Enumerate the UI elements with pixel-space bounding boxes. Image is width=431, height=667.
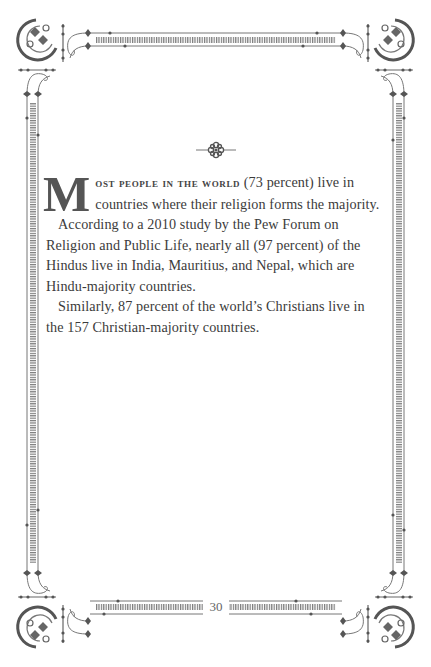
book-page: Most people in the world (73 percent) li…: [0, 0, 431, 667]
corner-ornament-bottom-left: [18, 570, 91, 647]
drop-cap: M: [43, 175, 90, 213]
paragraph-3: Similarly, 87 percent of the world’s Chr…: [46, 296, 386, 337]
corner-ornament-top-right: [340, 20, 413, 97]
corner-ornament-bottom-right: [340, 570, 413, 647]
paragraph-1: Most people in the world (73 percent) li…: [46, 172, 386, 214]
floral-ornament-icon: [196, 141, 236, 159]
corner-ornament-top-left: [18, 20, 91, 97]
paragraph-2: According to a 2010 study by the Pew For…: [46, 214, 386, 296]
page-number: 30: [203, 599, 229, 615]
smallcaps-lead: ost people in the world: [95, 175, 240, 190]
body-text: Most people in the world (73 percent) li…: [46, 172, 386, 337]
